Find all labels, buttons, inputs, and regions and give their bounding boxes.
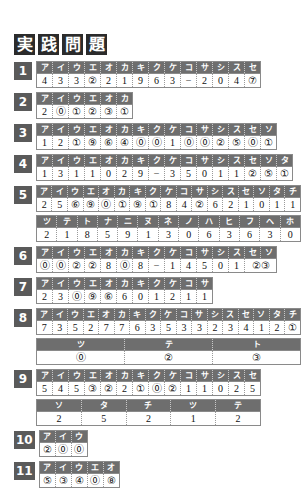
- answer-header-cell: ウ: [69, 278, 85, 290]
- answer-value-cell: ⓪: [53, 259, 69, 273]
- answer-value-cell: 1: [85, 167, 101, 181]
- answer-header-cell: ケ: [161, 309, 177, 321]
- answer-value-cell: 6: [199, 228, 219, 242]
- answer-table-value-row: 7352776353323412①: [37, 321, 301, 335]
- question-number-badge: 11: [14, 462, 35, 480]
- answer-value-cell: ④: [117, 136, 133, 150]
- answer-value-cell: ⑤: [39, 474, 55, 488]
- answer-header-cell: エ: [85, 155, 101, 167]
- answer-header-cell: セ: [245, 155, 261, 167]
- answer-value-cell: ⓪: [181, 136, 197, 150]
- answer-header-cell: シ: [213, 370, 229, 382]
- answer-header-cell: オ: [101, 247, 117, 259]
- answer-header-cell: ト: [213, 339, 301, 351]
- question-block: 5アイウエオカキクケコサシスセソタチ25⑥⑨⓪①⑨①84②621011ツテトナニ…: [14, 185, 301, 242]
- answer-value-cell: 1: [181, 290, 197, 304]
- answer-header-cell: ア: [37, 93, 53, 105]
- answer-table-value-row: ⓪⓪②②8⓪8−14501②③: [37, 259, 277, 273]
- answer-header-cell: コ: [181, 124, 197, 136]
- answer-value-cell: 5: [161, 321, 177, 335]
- answer-value-cell: 2: [223, 198, 238, 212]
- title-char: 実: [14, 34, 35, 55]
- answer-tables: アイウエオ⑤③④⓪⑧: [39, 461, 120, 488]
- answer-value-cell: 3: [52, 321, 68, 335]
- answer-header-cell: エ: [85, 247, 101, 259]
- answer-tables: アイウエオカキクケコサシスセソタチ25⑥⑨⓪①⑨①84②621011ツテトナニヌ…: [36, 185, 301, 242]
- question-block: 11アイウエオ⑤③④⓪⑧: [14, 461, 301, 488]
- question-number-badge: 4: [14, 155, 32, 173]
- question-block: 2アイウエオカ2⓪①②③①: [14, 92, 301, 119]
- answer-value-cell: 2: [101, 74, 117, 88]
- answer-table-header-row: ソタチツテ: [37, 400, 261, 412]
- answer-value-cell: ⑨: [83, 198, 99, 212]
- answer-value-cell: 2: [126, 412, 171, 426]
- answer-header-cell: ケ: [165, 62, 181, 74]
- answer-tables: アイウ②⓪⓪: [39, 430, 88, 457]
- question-number-badge: 8: [14, 309, 32, 327]
- answer-table: アイウ②⓪⓪: [39, 430, 88, 457]
- question-number-badge: 9: [14, 370, 32, 388]
- answer-header-cell: テ: [125, 339, 213, 351]
- answer-value-cell: 3: [53, 74, 69, 88]
- answer-table-value-row: 25212: [37, 412, 261, 426]
- answer-table-value-row: 2185913063630: [37, 228, 301, 242]
- answer-header-cell: サ: [197, 62, 213, 74]
- answer-value-cell: ⑧: [103, 474, 119, 488]
- answer-header-cell: ツ: [171, 400, 216, 412]
- answer-header-cell: イ: [53, 247, 69, 259]
- answer-value-cell: 0: [213, 74, 229, 88]
- answer-header-cell: ア: [37, 155, 53, 167]
- answer-header-cell: エ: [83, 186, 99, 198]
- answer-value-cell: ①: [145, 198, 161, 212]
- answer-value-cell: 4: [53, 382, 69, 396]
- answer-header-cell: ス: [229, 155, 245, 167]
- question-number-badge: 5: [14, 186, 32, 204]
- answer-header-cell: テ: [57, 216, 77, 228]
- question-block: 10アイウ②⓪⓪: [14, 430, 301, 457]
- answer-value-cell: ⓪: [149, 136, 165, 150]
- answer-value-cell: 6: [149, 74, 165, 88]
- answer-header-cell: コ: [181, 155, 197, 167]
- answer-header-cell: ケ: [165, 370, 181, 382]
- answer-header-cell: オ: [101, 124, 117, 136]
- question-number-badge: 6: [14, 247, 32, 265]
- answer-header-cell: コ: [181, 247, 197, 259]
- answer-table-value-row: ⓪②③: [37, 351, 301, 365]
- answer-value-cell: 1: [37, 167, 53, 181]
- answer-table: アイウエオ⑤③④⓪⑧: [39, 461, 120, 488]
- answer-table: アイウエオカキクケコサシスセソタ1311029−35011②⑤①: [36, 154, 293, 181]
- answer-value-cell: 3: [192, 321, 208, 335]
- answer-value-cell: −: [149, 259, 165, 273]
- answer-value-cell: ⑨: [130, 198, 146, 212]
- answer-value-cell: 3: [53, 167, 69, 181]
- answer-value-cell: 2: [197, 74, 213, 88]
- answer-header-cell: ケ: [165, 247, 181, 259]
- answer-header-cell: ク: [145, 309, 161, 321]
- answer-header-cell: イ: [53, 155, 69, 167]
- answer-header-cell: シ: [213, 247, 229, 259]
- answer-value-cell: 0: [133, 290, 149, 304]
- answer-header-cell: タ: [277, 155, 293, 167]
- answer-header-cell: ウ: [69, 62, 85, 74]
- answer-header-cell: オ: [101, 62, 117, 74]
- answer-header-cell: ア: [37, 309, 53, 321]
- answer-value-cell: 9: [133, 167, 149, 181]
- answer-header-cell: ア: [37, 62, 53, 74]
- answer-value-cell: 4: [176, 198, 191, 212]
- answer-header-cell: テ: [216, 400, 261, 412]
- answer-value-cell: ④: [71, 474, 87, 488]
- answer-header-cell: イ: [53, 370, 69, 382]
- answer-value-cell: ⑥: [67, 198, 83, 212]
- answer-header-cell: カ: [117, 370, 133, 382]
- answer-table: アイウエオカキクケコサシスセ433②21963−204⑦: [36, 61, 261, 88]
- title-char: 問: [62, 34, 83, 55]
- answer-value-cell: 1: [117, 74, 133, 88]
- answer-header-cell: オ: [101, 93, 117, 105]
- answer-header-cell: ア: [37, 370, 53, 382]
- answer-header-cell: エ: [85, 93, 101, 105]
- answer-value-cell: 5: [197, 259, 213, 273]
- answer-value-cell: 2: [269, 321, 285, 335]
- answer-header-cell: ス: [229, 247, 245, 259]
- answer-header-cell: ケ: [161, 186, 176, 198]
- answer-header-cell: ヒ: [219, 216, 239, 228]
